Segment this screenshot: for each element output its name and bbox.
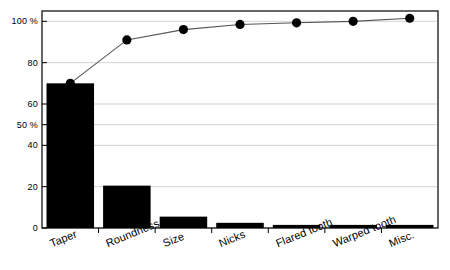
x-axis-label-misc: Misc. bbox=[387, 228, 416, 249]
pareto-chart: 100 %806050 %40200 TaperRoundnessSizeNic… bbox=[0, 0, 450, 270]
x-axis-label-taper: Taper bbox=[48, 227, 78, 249]
x-axis-label-flared-tooth: Flared tooth bbox=[274, 216, 334, 250]
x-axis-label-size: Size bbox=[161, 230, 186, 249]
x-axis-label-warped-tooth: Warped tooth bbox=[331, 213, 397, 249]
x-axis-label-roundness: Roundness bbox=[104, 217, 161, 249]
x-axis-label-nicks: Nicks bbox=[217, 228, 247, 249]
x-axis-labels: TaperRoundnessSizeNicksFlared toothWarpe… bbox=[0, 0, 450, 270]
